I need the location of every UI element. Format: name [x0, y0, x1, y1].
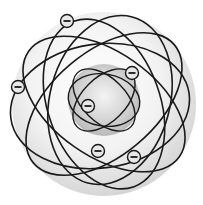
- atom-diagram: [0, 0, 203, 205]
- electron: [92, 145, 105, 158]
- electron: [61, 15, 74, 28]
- electron: [128, 151, 141, 164]
- electron: [126, 67, 139, 80]
- electron: [82, 100, 95, 113]
- electron: [12, 81, 25, 94]
